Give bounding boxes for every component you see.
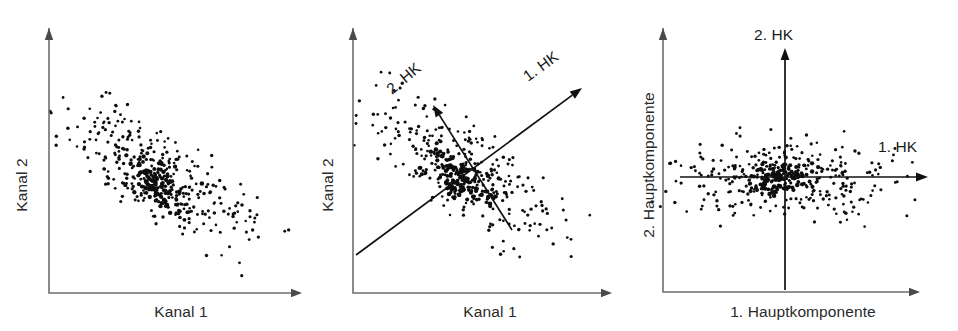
data-point bbox=[905, 214, 908, 217]
data-point bbox=[208, 216, 211, 219]
data-point bbox=[93, 125, 96, 128]
data-point bbox=[388, 71, 391, 74]
data-point bbox=[850, 182, 853, 185]
data-point bbox=[140, 152, 143, 155]
data-point bbox=[110, 134, 113, 137]
data-point bbox=[896, 180, 899, 183]
data-point bbox=[840, 161, 843, 164]
data-point bbox=[470, 189, 474, 193]
data-point bbox=[470, 141, 473, 144]
data-point bbox=[787, 207, 790, 210]
data-point bbox=[834, 196, 837, 199]
data-point bbox=[767, 192, 771, 196]
data-point bbox=[718, 172, 721, 175]
data-point bbox=[107, 121, 110, 124]
data-point bbox=[816, 141, 819, 144]
data-point bbox=[429, 149, 433, 153]
data-point bbox=[248, 215, 251, 218]
data-point bbox=[757, 159, 760, 162]
data-point bbox=[168, 211, 172, 215]
data-point bbox=[433, 153, 436, 156]
data-point bbox=[375, 84, 378, 87]
data-point bbox=[137, 158, 140, 161]
data-point bbox=[727, 178, 730, 181]
data-point bbox=[146, 170, 150, 174]
data-point bbox=[165, 150, 168, 153]
data-point bbox=[839, 155, 842, 158]
data-point bbox=[206, 183, 209, 186]
data-point bbox=[715, 199, 718, 202]
data-point bbox=[163, 140, 166, 143]
data-point bbox=[450, 187, 454, 191]
data-point bbox=[236, 201, 239, 204]
data-point bbox=[157, 186, 160, 189]
data-point bbox=[174, 198, 178, 202]
data-point bbox=[773, 146, 776, 149]
data-point bbox=[467, 140, 470, 143]
data-point bbox=[491, 163, 494, 166]
data-point bbox=[62, 96, 65, 99]
data-point bbox=[504, 180, 507, 183]
data-point bbox=[83, 140, 86, 143]
data-point bbox=[491, 246, 494, 249]
data-point bbox=[518, 256, 521, 259]
data-point bbox=[107, 177, 110, 180]
data-point bbox=[182, 192, 185, 195]
data-point bbox=[819, 193, 822, 196]
data-point bbox=[474, 188, 478, 192]
data-point bbox=[417, 125, 420, 128]
x-axis-arrowhead-icon bbox=[291, 289, 302, 297]
data-point bbox=[164, 169, 167, 172]
data-point bbox=[764, 200, 767, 203]
data-point bbox=[174, 141, 177, 144]
data-point bbox=[410, 127, 413, 130]
data-point bbox=[167, 196, 170, 199]
data-point bbox=[251, 228, 254, 231]
data-point bbox=[797, 169, 800, 172]
data-point bbox=[739, 165, 742, 168]
data-point bbox=[394, 106, 397, 109]
data-point bbox=[758, 168, 762, 172]
data-point bbox=[462, 214, 465, 217]
panel-3-principal-axes bbox=[680, 48, 928, 290]
principal-axis-arrowhead-icon bbox=[916, 173, 928, 182]
data-point bbox=[800, 151, 803, 154]
data-point bbox=[810, 185, 814, 189]
data-point bbox=[440, 163, 443, 166]
data-point bbox=[800, 182, 804, 186]
data-point bbox=[822, 197, 825, 200]
data-point bbox=[101, 126, 104, 129]
data-point bbox=[805, 167, 808, 170]
data-point bbox=[911, 161, 914, 164]
data-point bbox=[759, 206, 762, 209]
data-point bbox=[545, 228, 548, 231]
data-point bbox=[540, 200, 543, 203]
data-point bbox=[141, 154, 145, 158]
data-point bbox=[452, 157, 455, 160]
data-point bbox=[377, 132, 380, 135]
data-point bbox=[185, 155, 188, 158]
data-point bbox=[128, 161, 133, 166]
data-point bbox=[540, 204, 543, 207]
data-point bbox=[121, 135, 124, 138]
data-point bbox=[154, 190, 157, 193]
data-point bbox=[447, 192, 452, 197]
data-point bbox=[175, 168, 178, 171]
data-point bbox=[870, 161, 873, 164]
data-point bbox=[826, 167, 829, 170]
data-point bbox=[474, 175, 477, 178]
data-point bbox=[680, 164, 683, 167]
data-point bbox=[913, 198, 916, 201]
data-point bbox=[253, 216, 256, 219]
data-point bbox=[565, 218, 568, 221]
data-point bbox=[503, 185, 506, 188]
data-point bbox=[118, 167, 121, 170]
data-point bbox=[839, 221, 842, 224]
data-point bbox=[805, 133, 808, 136]
data-point bbox=[528, 229, 531, 232]
data-point bbox=[257, 235, 260, 238]
data-point bbox=[114, 143, 117, 146]
data-point bbox=[133, 177, 136, 180]
data-point bbox=[463, 131, 466, 134]
data-point bbox=[532, 189, 535, 192]
